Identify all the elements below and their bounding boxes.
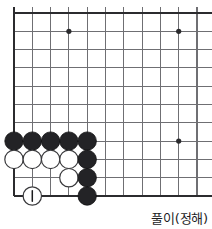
black-stone[interactable]: [41, 132, 59, 150]
black-stone-disc: [41, 132, 59, 150]
black-stone[interactable]: [23, 132, 41, 150]
black-stone[interactable]: [78, 132, 96, 150]
board-star-point: [66, 29, 71, 34]
black-stone[interactable]: [5, 132, 23, 150]
white-stone-disc: [5, 150, 23, 168]
white-stone-disc: [60, 169, 78, 187]
go-board-canvas[interactable]: [0, 0, 212, 212]
white-stone-disc: [60, 150, 78, 168]
black-stone[interactable]: [78, 169, 96, 187]
black-stone[interactable]: [78, 187, 96, 205]
white-stone[interactable]: [5, 150, 23, 168]
black-stone[interactable]: [60, 132, 78, 150]
board-grid: [14, 7, 212, 196]
black-stone-disc: [78, 169, 96, 187]
black-stone[interactable]: [78, 150, 96, 168]
black-stone-disc: [78, 150, 96, 168]
board-star-point: [176, 29, 181, 34]
black-stone-disc: [78, 132, 96, 150]
white-stone[interactable]: [60, 169, 78, 187]
go-board[interactable]: [0, 0, 212, 212]
white-stone[interactable]: [60, 150, 78, 168]
black-stone-disc: [78, 187, 96, 205]
black-stone-disc: [23, 132, 41, 150]
white-stone[interactable]: [41, 150, 59, 168]
board-star-point: [176, 139, 181, 144]
black-stone-disc: [5, 132, 23, 150]
white-stone-disc: [41, 150, 59, 168]
white-stone[interactable]: [23, 150, 41, 168]
diagram-caption: 풀이(정해): [151, 211, 208, 227]
black-stone-disc: [60, 132, 78, 150]
go-problem-diagram: 풀이(정해): [0, 0, 212, 229]
white-stone-disc: [23, 150, 41, 168]
